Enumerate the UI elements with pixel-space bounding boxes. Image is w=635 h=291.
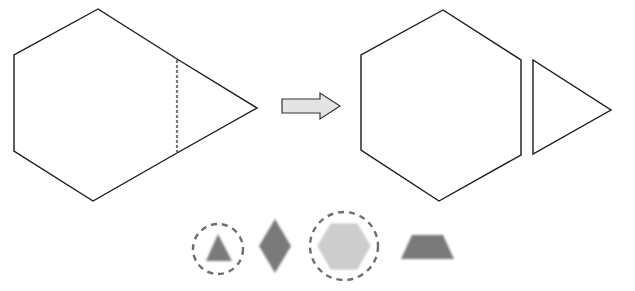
- triangle-block-icon: [206, 234, 232, 261]
- trapezoid-block-icon: [401, 235, 454, 259]
- diagram-canvas: [0, 0, 635, 291]
- pattern-block-hexagon: [310, 212, 378, 280]
- pattern-blocks: [193, 212, 454, 280]
- rhombus-block-icon: [259, 219, 291, 273]
- separated-pieces: [361, 10, 611, 201]
- pattern-block-triangle: [193, 224, 243, 274]
- combined-shape: [14, 9, 257, 201]
- hexagon-with-triangle-outline: [14, 9, 257, 201]
- right-arrow-icon: [282, 93, 340, 119]
- hexagon-piece: [361, 10, 521, 201]
- triangle-piece: [533, 60, 611, 154]
- hexagon-block-icon: [318, 224, 370, 269]
